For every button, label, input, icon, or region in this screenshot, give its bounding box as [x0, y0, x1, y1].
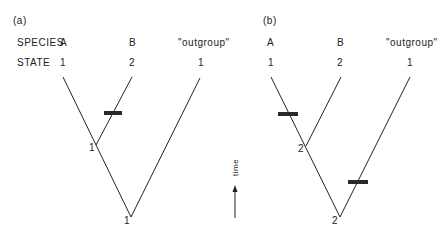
panel-a-label: (a) [13, 15, 27, 26]
taxon-a-name: A [267, 37, 274, 48]
root-state: 1 [124, 215, 130, 226]
taxon-outgroup-name: "outgroup" [178, 37, 230, 48]
panel-b-label: (b) [263, 15, 277, 26]
taxon-b-state: 2 [129, 57, 135, 68]
root-state: 2 [332, 215, 338, 226]
taxon-outgroup-name: "outgroup" [386, 37, 438, 48]
species-row-label: SPECIES [17, 37, 64, 48]
branch-a [271, 77, 340, 217]
time-axis: time [231, 159, 240, 218]
branch-outgroup [340, 77, 410, 217]
taxon-b-state: 2 [337, 57, 343, 68]
internal-node-state: 1 [89, 142, 95, 153]
taxon-b-name: B [337, 37, 344, 48]
internal-node-state: 2 [298, 143, 304, 154]
state-row-label: STATE [17, 57, 50, 68]
branch-outgroup [131, 78, 200, 217]
time-label: time [231, 159, 240, 176]
state-change-bar-outgroup [348, 180, 368, 184]
panel-a: (a) SPECIES A B "outgroup" STATE 1 2 1 1… [13, 15, 230, 226]
branch-b [306, 77, 341, 146]
taxon-outgroup-state: 1 [407, 57, 413, 68]
taxon-a-state: 1 [268, 57, 274, 68]
taxon-a-state: 1 [60, 57, 66, 68]
panel-b: (b) A B "outgroup" 1 2 1 2 2 [263, 15, 438, 226]
taxon-a-name: A [60, 37, 67, 48]
taxon-outgroup-state: 1 [198, 57, 204, 68]
arrow-up-icon [233, 185, 238, 192]
state-change-bar-a [278, 112, 298, 116]
taxon-b-name: B [129, 37, 136, 48]
state-change-bar [104, 111, 122, 115]
phylogeny-figure: (a) SPECIES A B "outgroup" STATE 1 2 1 1… [0, 0, 445, 234]
